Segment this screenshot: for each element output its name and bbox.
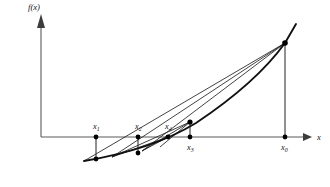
- label-x1: x1: [92, 122, 100, 132]
- y-axis-arrowhead: [37, 14, 45, 28]
- point-x3-on-curve: [187, 119, 192, 124]
- y-axis-label: f(x): [28, 2, 40, 12]
- label-x0: x0: [280, 143, 288, 153]
- x-axis-label: x: [316, 132, 321, 142]
- point-x1-on-axis: [94, 135, 99, 140]
- point-x2-on-curve: [136, 151, 141, 156]
- point-x2-on-axis: [136, 135, 141, 140]
- figure-canvas: f(x) x: [0, 0, 330, 187]
- secant-line-x1-x0: [84, 43, 285, 161]
- point-x0-on-axis: [283, 135, 288, 140]
- secant-lines-group: [84, 43, 285, 161]
- secant-line-x3-x0: [142, 43, 285, 151]
- axes-group: [37, 14, 312, 141]
- label-x4: x4: [164, 122, 172, 132]
- point-x4-on-axis: [166, 135, 171, 140]
- point-x3-on-axis: [188, 135, 193, 140]
- point-x1-on-curve: [94, 157, 99, 162]
- point-x0-on-curve: [282, 40, 288, 46]
- function-curve: [84, 24, 296, 161]
- x-axis-arrowhead: [303, 133, 312, 141]
- label-x3: x3: [186, 143, 194, 153]
- drop-lines-group: [96, 43, 285, 159]
- label-x2: x2: [134, 122, 142, 132]
- diagram-svg: f(x) x: [0, 0, 330, 187]
